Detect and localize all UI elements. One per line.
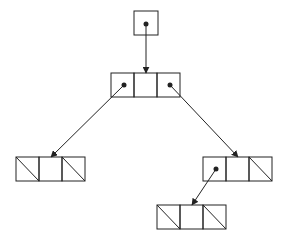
data-cell [134,73,157,97]
pointer-dot-icon [214,167,219,172]
null-link-icon [16,157,39,181]
null-link-icon [157,205,180,229]
data-cell [39,157,62,181]
null-link-icon [203,205,226,229]
edges [51,24,238,205]
null-link-icon [62,157,85,181]
pointer-dot-icon [168,83,173,88]
tree-node-root [111,73,180,97]
pointer-dot-icon [122,83,127,88]
null-link-icon [249,157,272,181]
tree-node-right-child [203,157,272,181]
tree-node-right-child-left-leaf [157,205,226,229]
nodes [16,11,272,229]
data-cell [180,205,203,229]
tree-node-left-leaf [16,157,85,181]
pointer-dot-icon [144,22,149,27]
binary-tree-diagram [0,0,292,243]
pointer-arrow-icon [192,169,216,205]
data-cell [226,157,249,181]
pointer-arrow-icon [51,85,124,157]
